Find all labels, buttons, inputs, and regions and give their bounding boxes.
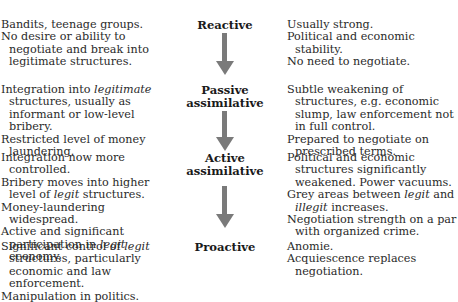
italic-term: legit (404, 188, 429, 201)
list-item: Grey areas between legit and illegit inc… (287, 189, 458, 214)
stage-label-passive-assimilative: Passive assimilative (170, 84, 280, 109)
down-arrow-icon (216, 111, 234, 151)
list-item: Integration into legitimate structures, … (1, 84, 166, 134)
list-item: No desire or ability to negotiate and br… (1, 31, 166, 68)
stage-proactive-environment: Anomie.Acquiescence replaces negotiation… (287, 241, 458, 278)
stage-active-assimilative-environment: Political and economic structures signif… (287, 152, 458, 239)
stage-label-proactive: Proactive (170, 241, 280, 254)
down-arrow-icon (216, 186, 234, 228)
italic-term: legitimate (94, 83, 151, 96)
stage-passive-assimilative-characteristics: Integration into legitimate structures, … (1, 84, 166, 158)
stage-passive-assimilative-environment: Subtle weakening of structures, e.g. eco… (287, 84, 458, 158)
stage-name-line: assimilative (170, 165, 280, 178)
list-item: Subtle weakening of structures, e.g. eco… (287, 84, 458, 134)
stage-name: Proactive (194, 240, 255, 254)
stage-label-reactive: Reactive (170, 19, 280, 32)
list-item: Money-laundering widespread. (1, 202, 166, 227)
italic-term: legit (124, 240, 149, 253)
list-item: Significant control of legit structures,… (1, 241, 166, 291)
list-item: Political and economic structures signif… (287, 152, 458, 189)
stage-proactive-characteristics: Significant control of legit structures,… (1, 241, 166, 302)
list-item: Acquiescence replaces negotiation. (287, 253, 458, 278)
stage-name-line: assimilative (170, 97, 280, 110)
stage-name: Reactive (197, 18, 252, 32)
list-item: Political and economic stability. (287, 31, 458, 56)
list-item: Manipulation in politics. (1, 291, 166, 302)
list-item: Integration now more controlled. (1, 152, 166, 177)
list-item: No need to negotiate. (287, 56, 458, 68)
stage-label-active-assimilative: Active assimilative (170, 152, 280, 177)
stage-name-line: Active (170, 152, 280, 165)
list-item: Negotiation strength on a par with organ… (287, 214, 458, 239)
italic-term: legit (54, 188, 79, 201)
stage-reactive-characteristics: Bandits, teenage groups.No desire or abi… (1, 19, 166, 69)
down-arrow-icon (216, 33, 234, 75)
stage-reactive-environment: Usually strong.Political and economic st… (287, 19, 458, 69)
italic-term: illegit (295, 201, 328, 214)
list-item: Bribery moves into higher level of legit… (1, 177, 166, 202)
stage-name-line: Passive (170, 84, 280, 97)
